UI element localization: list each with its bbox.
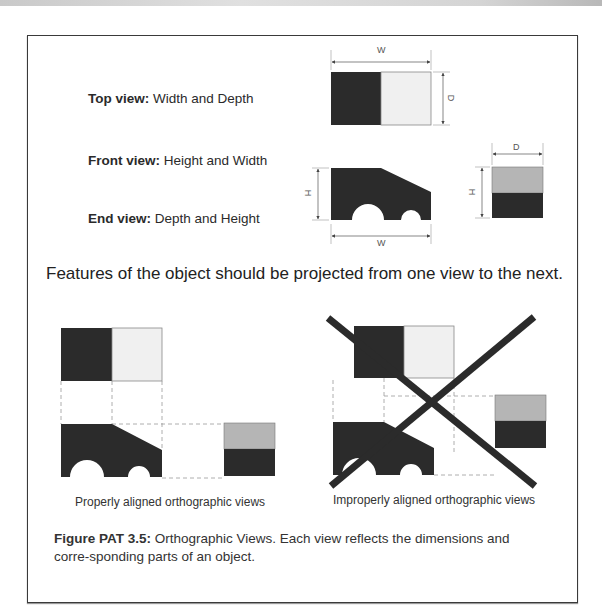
end-depth-label: D bbox=[513, 142, 520, 152]
front-view bbox=[312, 168, 431, 244]
projection-headline: Features of the object should be project… bbox=[46, 264, 563, 284]
figure-caption: Figure PAT 3.5: Orthographic Views. Each… bbox=[54, 530, 524, 566]
proper-alignment-label: Properly aligned orthographic views bbox=[75, 495, 265, 509]
end-view bbox=[475, 143, 543, 218]
proper-alignment-example bbox=[61, 328, 275, 478]
top-view bbox=[331, 50, 450, 125]
orthographic-diagram bbox=[0, 0, 602, 611]
improper-alignment-label: Improperly aligned orthographic views bbox=[333, 493, 535, 507]
improper-alignment-example bbox=[328, 317, 546, 486]
top-depth-label: D bbox=[446, 95, 456, 102]
end-height-label: H bbox=[467, 189, 477, 196]
figure-number: Figure PAT 3.5: bbox=[54, 531, 151, 546]
top-width-label: W bbox=[377, 45, 386, 55]
front-width-label: W bbox=[377, 238, 386, 248]
front-height-label: H bbox=[303, 190, 313, 197]
